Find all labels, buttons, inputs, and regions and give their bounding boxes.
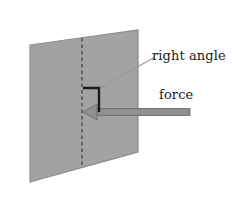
right-angle-label: right angle: [152, 49, 226, 62]
force-arrow-shaft: [97, 109, 190, 116]
physics-diagram: [0, 0, 232, 199]
force-label: force: [159, 88, 193, 101]
plane-shading-left: [30, 38, 82, 182]
diagram-canvas: right angle force: [0, 0, 232, 199]
